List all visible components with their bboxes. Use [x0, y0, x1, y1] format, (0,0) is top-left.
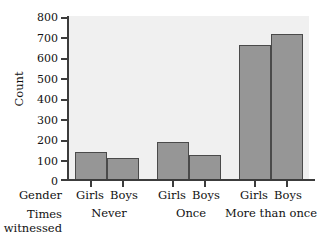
x-tick-mark-more-boys — [286, 181, 288, 187]
y-tick-label-200: 200 — [18, 135, 58, 146]
x-tick-mark-never-boys — [122, 181, 124, 187]
row-label-times-line1: Times — [0, 207, 62, 221]
y-tick-label-800: 800 — [18, 12, 58, 23]
row-label-times-line2: witnessed — [0, 221, 62, 235]
x-label-once-girls: Girls — [154, 189, 190, 202]
bar-never-boys — [107, 158, 139, 180]
y-tick-label-100: 100 — [18, 156, 58, 167]
row-label-gender: Gender — [0, 189, 62, 202]
x-tick-mark-once-boys — [204, 181, 206, 187]
x-label-never-girls: Girls — [72, 189, 108, 202]
x-axis-spine — [67, 179, 315, 181]
x-label-more-boys: Boys — [270, 189, 306, 202]
x-group-label-never: Never — [74, 207, 144, 220]
x-label-never-boys: Boys — [106, 189, 142, 202]
bar-once-girls — [157, 142, 189, 180]
y-axis-title: Count — [12, 54, 26, 124]
x-group-label-more-than-once: More than once — [216, 207, 326, 220]
bar-chart-figure: 800 700 600 500 400 300 200 100 0 Count … — [0, 0, 330, 248]
bar-more-than-once-girls — [239, 45, 271, 180]
y-tick-label-700: 700 — [18, 33, 58, 44]
bar-never-girls — [75, 152, 107, 180]
x-tick-mark-once-girls — [172, 181, 174, 187]
x-label-more-girls: Girls — [236, 189, 272, 202]
x-label-once-boys: Boys — [188, 189, 224, 202]
x-tick-mark-never-girls — [90, 181, 92, 187]
bar-more-than-once-boys — [271, 34, 303, 180]
row-label-times: Times witnessed — [0, 207, 62, 235]
y-tick-label-0: 0 — [18, 176, 58, 187]
y-axis-spine — [67, 16, 69, 181]
bar-once-boys — [189, 155, 221, 180]
x-tick-mark-more-girls — [254, 181, 256, 187]
